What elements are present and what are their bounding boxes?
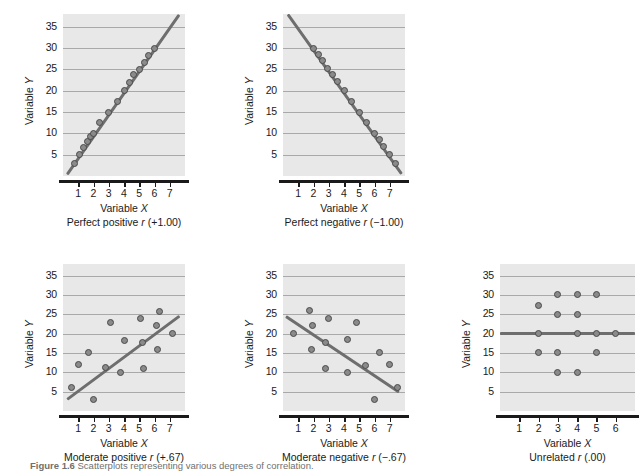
x-tick-label: 1: [509, 422, 529, 434]
data-point: [593, 291, 600, 298]
data-point: [574, 311, 581, 318]
data-point: [593, 330, 600, 337]
y-axis-title: Variable Y: [460, 320, 472, 368]
gridline: [500, 314, 635, 315]
gridline: [500, 295, 635, 296]
y-tick-label: 30: [472, 288, 494, 300]
x-tick-label: 6: [606, 422, 626, 434]
y-tick-label: 20: [472, 327, 494, 339]
panel-caption-unrelated: Unrelated r (.00): [460, 451, 643, 463]
y-tick-label: 5: [472, 385, 494, 397]
data-point: [554, 311, 561, 318]
data-point: [574, 330, 581, 337]
data-point: [554, 291, 561, 298]
plot-area: [500, 264, 635, 411]
data-point: [554, 349, 561, 356]
x-tick-label: 2: [529, 422, 549, 434]
y-tick-label: 15: [472, 346, 494, 358]
y-tick-label: 10: [472, 365, 494, 377]
data-point: [554, 369, 561, 376]
figure-caption-text: Scatterplots representing various degree…: [78, 460, 314, 471]
x-tick-label: 5: [586, 422, 606, 434]
y-tick-label: 35: [472, 269, 494, 281]
data-point: [574, 291, 581, 298]
y-tick-label: 25: [472, 307, 494, 319]
figure-caption: Figure 1.6 Scatterplots representing var…: [30, 460, 314, 471]
data-point: [535, 330, 542, 337]
data-point: [593, 349, 600, 356]
gridline: [500, 392, 635, 393]
figure-caption-label: Figure 1.6: [30, 460, 75, 471]
data-point: [574, 369, 581, 376]
x-axis-title: Variable X: [470, 437, 643, 449]
data-point: [612, 330, 619, 337]
gridline: [500, 276, 635, 277]
data-point: [535, 302, 542, 309]
x-tick-label: 4: [567, 422, 587, 434]
data-point: [535, 349, 542, 356]
gridline: [500, 353, 635, 354]
x-tick-label: 3: [548, 422, 568, 434]
x-axis: [496, 415, 639, 418]
gridline: [500, 372, 635, 373]
